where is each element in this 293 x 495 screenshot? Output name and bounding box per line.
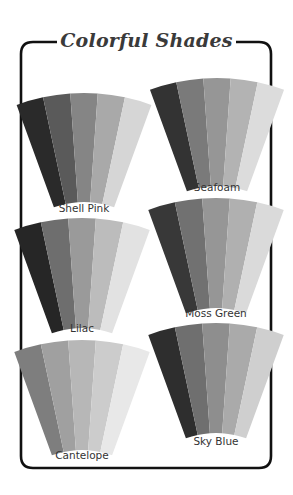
swatch-label: Sky Blue (193, 435, 238, 448)
fan-swatch-sky-blue (0, 0, 293, 495)
